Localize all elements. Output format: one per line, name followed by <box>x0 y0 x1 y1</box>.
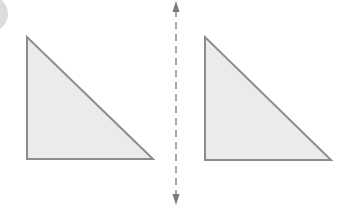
dashed-axis-line <box>173 1 180 205</box>
arrow-up-icon <box>173 1 180 12</box>
corner-badge <box>0 0 8 32</box>
triangle-right <box>205 37 331 160</box>
triangle-left <box>27 37 153 159</box>
diagram-canvas <box>0 0 342 214</box>
arrow-down-icon <box>173 194 180 205</box>
